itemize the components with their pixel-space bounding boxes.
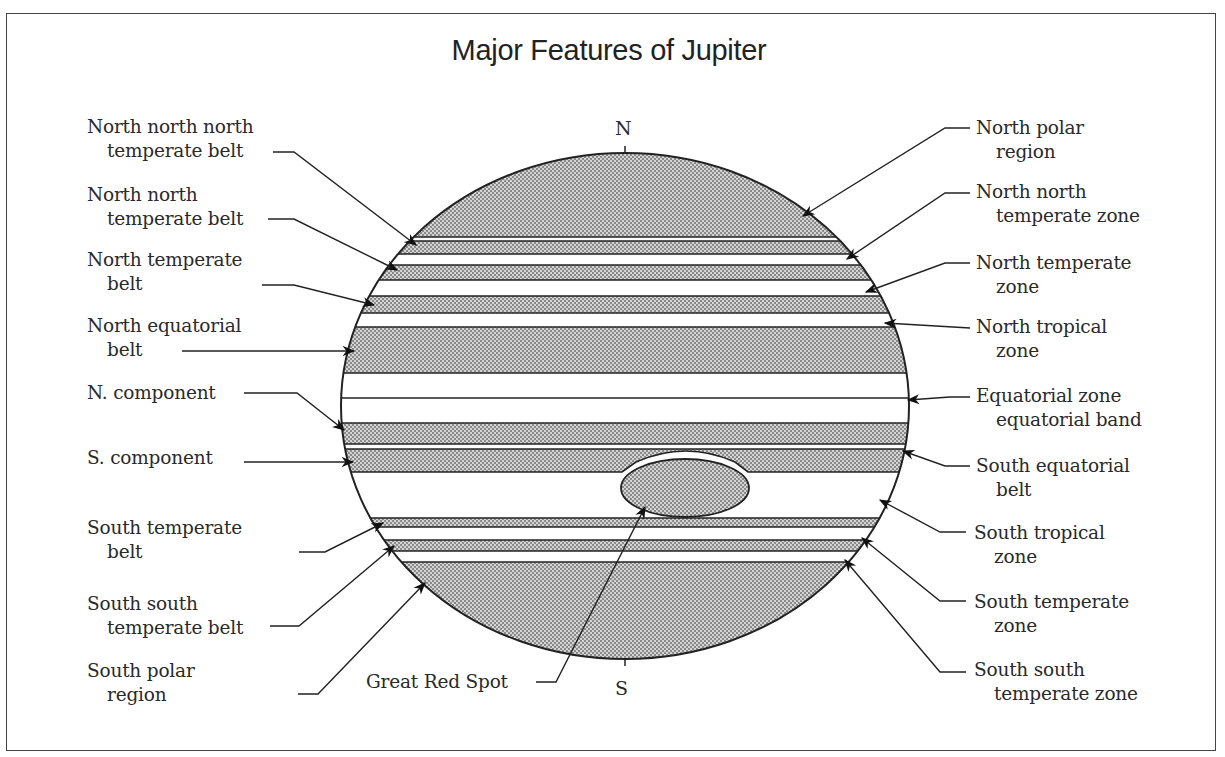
label-north-temperate-belt: North temperate belt [87, 248, 242, 296]
jupiter-diagram [0, 0, 1225, 757]
label-south-equatorial-belt: South equatorial belt [976, 454, 1130, 502]
label-north-temperate-zone: North temperate zone [976, 251, 1131, 299]
north-equatorial-belt [330, 327, 930, 373]
north-polar-region [330, 140, 930, 237]
label-south-temperate-zone: South temperate zone [974, 590, 1129, 638]
label-south-temperate-belt: South temperate belt [87, 516, 242, 564]
label-n-component: N. component [87, 381, 216, 405]
north-label: N [615, 117, 632, 139]
great-red-spot [621, 459, 749, 517]
label-ss-temperate-zone: South south temperate zone [974, 658, 1138, 706]
label-north-tropical-zone: North tropical zone [976, 315, 1107, 363]
label-nnn-temperate-belt: North north north temperate belt [87, 115, 253, 163]
label-s-component: S. component [87, 446, 213, 470]
label-north-polar-region: North polar region [976, 116, 1084, 164]
label-equatorial-zone: Equatorial zone equatorial band [976, 384, 1142, 432]
n-component-band [330, 423, 930, 444]
ss-temperate-belt [330, 540, 930, 551]
label-south-tropical-zone: South tropical zone [974, 521, 1105, 569]
planet-bands [330, 140, 930, 682]
label-great-red-spot: Great Red Spot [366, 670, 508, 694]
nn-temperate-belt [330, 265, 930, 280]
nnn-temperate-belt [330, 241, 930, 254]
south-temperate-belt [330, 518, 930, 527]
label-ss-temperate-belt: South south temperate belt [87, 592, 243, 640]
label-nn-temperate-belt: North north temperate belt [87, 183, 243, 231]
south-label: S [615, 677, 628, 699]
label-nn-temperate-zone: North north temperate zone [976, 180, 1140, 228]
label-south-polar-region: South polar region [87, 659, 195, 707]
label-north-equatorial-belt: North equatorial belt [87, 314, 241, 362]
north-temperate-belt [330, 296, 930, 313]
